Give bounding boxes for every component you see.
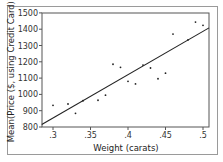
- y-tick-label: 1100: [18, 74, 38, 83]
- x-axis: .3.35.4.45.5: [49, 127, 207, 140]
- data-point: [105, 94, 107, 96]
- x-tick-label: .35: [84, 131, 97, 140]
- data-point: [172, 33, 174, 35]
- data-point: [120, 66, 122, 68]
- y-tick-label: 1400: [18, 25, 38, 34]
- data-point: [165, 72, 167, 74]
- data-point: [97, 99, 99, 101]
- x-tick-label: .5: [199, 131, 207, 140]
- data-point: [112, 63, 114, 65]
- y-tick-label: 900: [23, 107, 38, 116]
- y-axis: 800900100011001200130014001500: [18, 9, 42, 132]
- data-point: [67, 103, 69, 105]
- x-tick-label: .4: [124, 131, 132, 140]
- y-tick-label: 1200: [18, 58, 38, 67]
- data-point: [157, 78, 159, 80]
- data-point: [135, 83, 137, 85]
- data-point: [127, 80, 129, 82]
- x-tick-label: .3: [49, 131, 57, 140]
- y-tick-label: 1300: [18, 42, 38, 51]
- scatter-chart: 800900100011001200130014001500 .3.35.4.4…: [0, 0, 223, 162]
- x-tick-label: .45: [159, 131, 172, 140]
- y-axis-title: Mean(Price ($, using Credit Card)): [6, 0, 16, 142]
- x-axis-title: Weight (carats): [93, 143, 158, 153]
- data-point: [75, 112, 77, 114]
- data-point: [195, 21, 197, 23]
- data-point: [202, 24, 204, 26]
- y-tick-label: 1500: [18, 9, 38, 18]
- y-tick-label: 800: [23, 123, 38, 132]
- y-tick-label: 1000: [18, 90, 38, 99]
- data-point: [150, 67, 152, 69]
- data-point: [52, 104, 54, 106]
